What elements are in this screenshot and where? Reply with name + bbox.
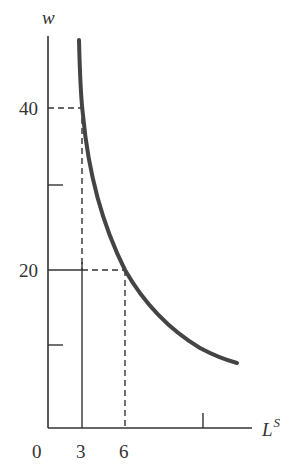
labor-supply-chart xyxy=(0,0,287,470)
x-tick-label-3: 3 xyxy=(76,442,86,461)
x-axis-label: LS xyxy=(262,420,280,439)
labor-supply-curve xyxy=(79,40,237,363)
x-axis-label-main: L xyxy=(262,419,273,440)
y-tick-label-40: 40 xyxy=(19,99,38,118)
x-tick-label-6: 6 xyxy=(119,442,129,461)
y-axis-label: w xyxy=(42,8,55,27)
x-tick-label-0: 0 xyxy=(32,442,42,461)
y-tick-label-20: 20 xyxy=(19,261,38,280)
x-axis-label-superscript: S xyxy=(274,415,281,430)
